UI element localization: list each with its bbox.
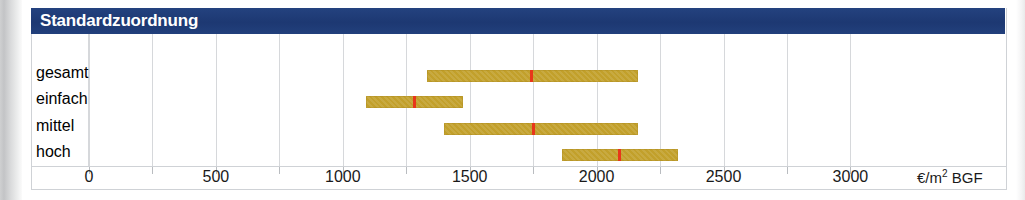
gridline xyxy=(660,34,661,166)
x-tick-label: 2500 xyxy=(706,168,742,186)
axis-unit-suffix: BGF xyxy=(948,169,983,186)
median-marker-einfach xyxy=(413,96,416,108)
chart-title-bar: Standardzuordnung xyxy=(31,8,1005,34)
page-title: Standardzuordnung xyxy=(40,11,198,31)
row-label-einfach: einfach xyxy=(36,90,88,108)
axis-tick xyxy=(279,166,280,174)
median-marker-gesamt xyxy=(530,70,533,82)
axis-tick xyxy=(406,166,407,174)
label-column-divider xyxy=(88,34,89,166)
gridline xyxy=(724,34,725,166)
axis-tick xyxy=(787,166,788,174)
gridline xyxy=(597,34,598,166)
x-tick-label: 1500 xyxy=(452,168,488,186)
row-label-mittel: mittel xyxy=(36,117,74,135)
gridline xyxy=(152,34,153,166)
chart-page: Standardzuordnung €/m2 BGF 0500100015002… xyxy=(0,0,1025,200)
axis-tick xyxy=(152,166,153,174)
x-tick-label: 1000 xyxy=(325,168,361,186)
median-marker-mittel xyxy=(532,123,535,135)
axis-unit-label: €/m2 BGF xyxy=(917,168,983,186)
x-tick-label: 500 xyxy=(203,168,230,186)
scan-edge-left xyxy=(0,0,22,200)
gridline xyxy=(279,34,280,166)
x-axis-line xyxy=(32,166,1006,167)
row-label-gesamt: gesamt xyxy=(36,64,88,82)
scan-edge-right xyxy=(1016,0,1025,200)
gridline xyxy=(470,34,471,166)
range-bar-mittel xyxy=(444,123,638,135)
x-tick-label: 0 xyxy=(85,168,94,186)
gridline xyxy=(343,34,344,166)
gridline xyxy=(89,34,90,166)
axis-tick xyxy=(660,166,661,174)
gridline xyxy=(850,34,851,166)
gridline xyxy=(216,34,217,166)
x-tick-label: 3000 xyxy=(833,168,869,186)
x-tick-label: 2000 xyxy=(579,168,615,186)
gridline xyxy=(787,34,788,166)
axis-tick xyxy=(533,166,534,174)
row-label-hoch: hoch xyxy=(36,143,71,161)
axis-unit-prefix: €/m xyxy=(917,169,942,186)
median-marker-hoch xyxy=(618,149,621,161)
gridline xyxy=(533,34,534,166)
plot-area xyxy=(32,34,1006,166)
